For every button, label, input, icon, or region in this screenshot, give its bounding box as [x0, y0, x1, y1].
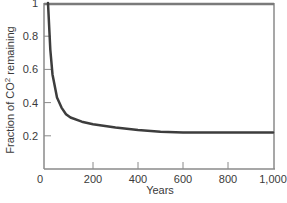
x-ticks: 02004006008001,000 [37, 162, 287, 185]
x-tick-label: 600 [174, 173, 192, 185]
x-tick-label: 0 [37, 173, 43, 185]
x-tick-label: 800 [219, 173, 237, 185]
y-axis-label: Fraction of CO2 remaining [3, 26, 16, 153]
y-tick-label: 0.4 [23, 97, 38, 109]
y-ticks: 0.20.40.60.81 [23, 0, 51, 142]
co2-fraction-curve [48, 3, 273, 133]
x-axis-label: Years [146, 184, 174, 196]
x-tick-label: 200 [84, 173, 102, 185]
y-tick-label: 0.6 [23, 63, 38, 75]
co2-decay-chart: 02004006008001,000 0.20.40.60.81 Years F… [0, 0, 287, 203]
y-tick-label: 0.8 [23, 30, 38, 42]
axes [44, 3, 275, 169]
y-tick-label: 1 [32, 0, 38, 9]
x-tick-label: 400 [129, 173, 147, 185]
x-tick-label: 1,000 [259, 173, 287, 185]
y-tick-label: 0.2 [23, 130, 38, 142]
